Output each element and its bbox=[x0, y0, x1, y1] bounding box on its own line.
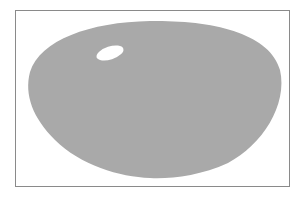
gray-blob-shape bbox=[28, 21, 281, 178]
diagram-canvas bbox=[0, 0, 302, 204]
